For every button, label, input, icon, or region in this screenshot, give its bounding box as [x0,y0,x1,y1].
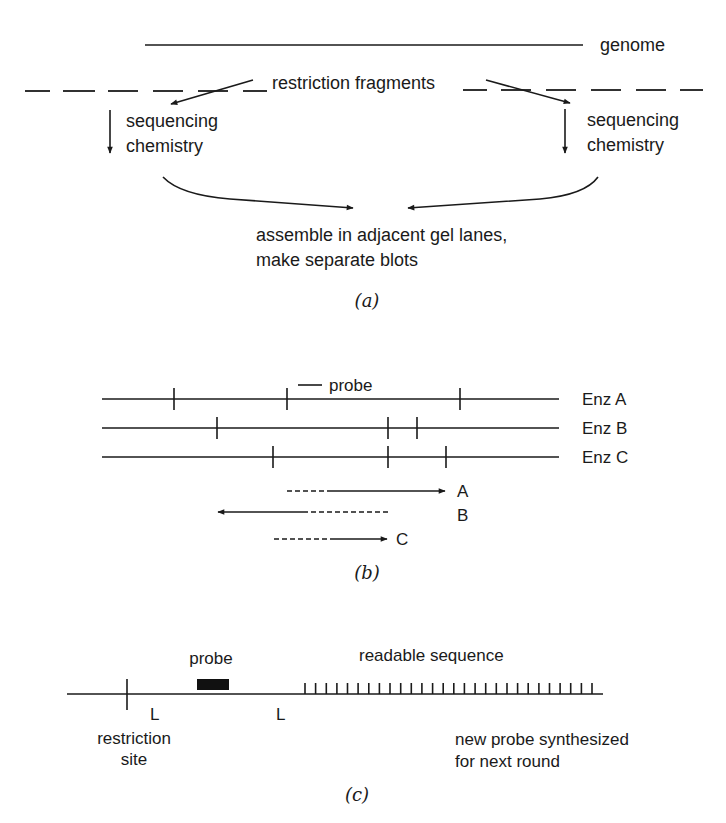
left-merge-arrow [163,177,353,208]
new-probe-label: new probe synthesized [455,730,629,749]
caption-c: (c) [345,784,369,805]
enz-c-label: Enz C [582,448,628,467]
right-merge-arrow [408,177,598,208]
caption-a: (a) [355,290,380,311]
restriction-fragments-label: restriction fragments [272,73,435,93]
arrow-to-left-fragments [171,80,253,104]
read-b-label: B [457,506,468,525]
left-sequencing-label: sequencing [126,111,218,131]
linker-left-label: L [150,705,159,724]
readable-sequence-hatches [305,683,592,694]
probe-label: probe [329,376,372,395]
arrow-to-right-fragments [486,80,570,103]
enz-a-label: Enz A [582,390,627,409]
enz-b-map: Enz B [102,417,627,439]
caption-b: (b) [354,562,380,583]
genome-label: genome [600,35,665,55]
read-c-label: C [396,530,408,549]
readable-sequence-label: readable sequence [359,646,504,665]
assemble-label: assemble in adjacent gel lanes, [256,225,507,245]
enz-b-label: Enz B [582,419,627,438]
read-a-label: A [457,482,469,501]
restriction-label: restriction [97,729,171,748]
site-label: site [121,750,147,769]
probe-block [197,679,229,690]
enz-c-map: Enz C [102,446,628,468]
read-b-arrow: B [218,506,468,525]
panel-c: probe readable sequence L L restriction … [67,646,629,805]
diagram-canvas: genome restriction fragments sequencing … [0,0,726,823]
read-a-arrow: A [287,482,469,501]
panel-b: probe Enz A Enz B Enz C A [102,376,628,583]
left-chemistry-label: chemistry [126,136,203,156]
panel-a: genome restriction fragments sequencing … [25,35,703,311]
blots-label: make separate blots [256,250,418,270]
probe-label-c: probe [189,649,232,668]
right-sequencing-label: sequencing [587,110,679,130]
read-c-arrow: C [274,530,408,549]
next-round-label: for next round [455,752,560,771]
right-chemistry-label: chemistry [587,135,664,155]
linker-right-label: L [276,705,285,724]
